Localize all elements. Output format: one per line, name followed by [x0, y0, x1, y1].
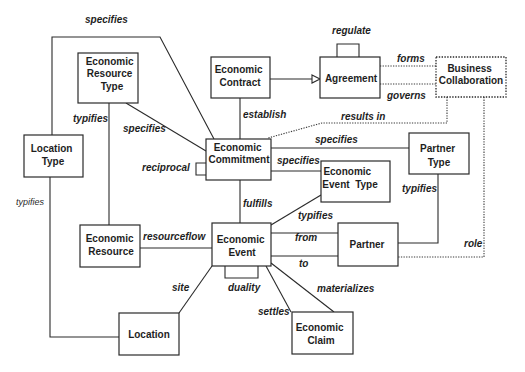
label-typifies-resourcetype: typifies: [73, 113, 108, 124]
entity-location[interactable]: Location: [119, 313, 179, 355]
hollow-triangle-arrow-icon: [312, 75, 320, 83]
entity-label: Claim: [307, 335, 334, 346]
entity-label: Economic: [323, 166, 371, 177]
edge-role: [398, 97, 484, 257]
entity-label: Economic: [214, 142, 262, 153]
label-typifies-eventtype: typifies: [298, 210, 333, 221]
entity-label: Collaboration: [439, 75, 503, 86]
entity-economic-resource-type[interactable]: Economic Resource Type: [78, 53, 138, 103]
entity-label: Commitment: [208, 154, 270, 165]
label-materializes: materializes: [317, 283, 375, 294]
label-typifies-partnertype: typifies: [402, 183, 437, 194]
label-results-in: results in: [341, 111, 385, 122]
label-specifies-resourcetype: specifies: [123, 123, 166, 134]
entity-label: Economic: [86, 233, 134, 244]
edge-duality-loop: [225, 266, 258, 278]
entity-partner-type[interactable]: Partner Type: [409, 133, 469, 174]
svg-text:Economic Commitment: Economic Commitment: [208, 142, 270, 165]
label-resourceflow: resourceflow: [143, 231, 206, 242]
svg-text:Agreement: Agreement: [325, 73, 378, 84]
entity-label: Type: [42, 156, 65, 167]
entity-label: Location: [128, 329, 170, 340]
label-reciprocal: reciprocal: [142, 162, 190, 173]
label-forms: forms: [397, 53, 425, 64]
entity-label: Economic: [217, 234, 265, 245]
label-from: from: [295, 232, 317, 243]
label-settles: settles: [258, 306, 290, 317]
reference-model-diagram: Economic Resource Type Economic Contract…: [0, 0, 525, 372]
entity-economic-commitment[interactable]: Economic Commitment: [206, 139, 271, 180]
entity-label: Type: [428, 157, 451, 168]
entity-label: Event: [228, 247, 256, 258]
entity-label: Event Type: [322, 179, 378, 190]
entity-label: Partner: [420, 143, 455, 154]
entity-label: Partner: [349, 239, 384, 250]
entity-label: Business: [447, 63, 492, 74]
label-to: to: [299, 258, 308, 269]
svg-text:Location: Location: [128, 329, 170, 340]
entity-economic-event[interactable]: Economic Event: [212, 223, 271, 266]
edge-reciprocal-loop: [196, 163, 206, 175]
label-governs: governs: [386, 90, 426, 101]
entity-economic-resource[interactable]: Economic Resource: [80, 225, 140, 267]
entity-label: Contract: [219, 77, 261, 88]
label-typifies-locationtype: typifies: [16, 197, 45, 207]
entity-location-type[interactable]: Location Type: [24, 135, 83, 177]
label-fulfills: fulfills: [243, 198, 273, 209]
entity-label: Location: [31, 143, 73, 154]
entity-economic-contract[interactable]: Economic Contract: [211, 57, 270, 98]
label-role: role: [464, 238, 483, 249]
entity-economic-claim[interactable]: Economic Claim: [292, 312, 353, 354]
edge-regulate-loop: [337, 44, 359, 57]
label-specifies-partnertype: specifies: [315, 134, 358, 145]
entity-label: Type: [101, 81, 124, 92]
svg-text:Partner: Partner: [349, 239, 384, 250]
label-specifies-eventtype: specifies: [277, 155, 320, 166]
entity-agreement[interactable]: Agreement: [320, 57, 380, 98]
label-establish: establish: [243, 109, 286, 120]
entity-label: Agreement: [325, 73, 378, 84]
entity-partner[interactable]: Partner: [338, 223, 398, 266]
label-specifies-top: specifies: [85, 14, 128, 25]
label-duality: duality: [228, 282, 261, 293]
label-site: site: [172, 282, 190, 293]
entity-label: Economic: [86, 56, 134, 67]
entity-label: Economic: [215, 64, 263, 75]
svg-text:Business Collaboration: Business Collaboration: [439, 63, 503, 86]
entity-label: Resource: [87, 68, 133, 79]
entity-label: Resource: [88, 246, 134, 257]
entity-business-collaboration[interactable]: Business Collaboration: [436, 57, 506, 97]
label-regulate: regulate: [332, 25, 371, 36]
entity-label: Economic: [296, 322, 344, 333]
